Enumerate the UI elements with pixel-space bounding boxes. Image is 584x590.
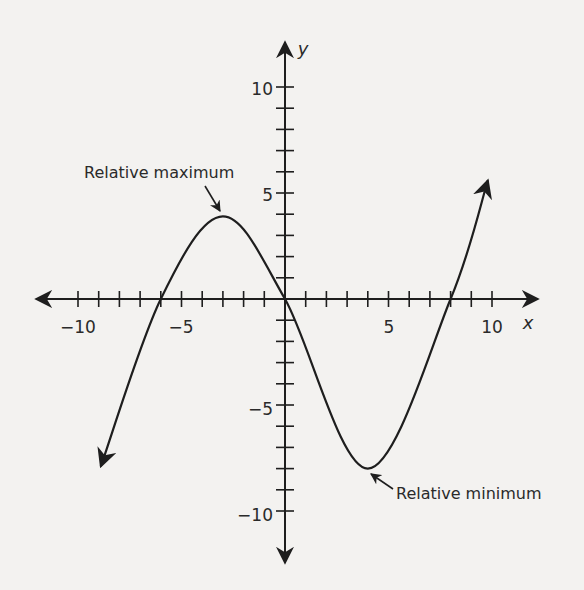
x-tick-label: −5 [168,317,193,337]
function-curve [101,180,488,468]
y-axis-label: y [297,38,309,59]
relative-maximum-label: Relative maximum [84,163,234,182]
y-tick-label: 5 [262,185,273,205]
y-tick-label: −10 [237,505,273,525]
relative-minimum-label: Relative minimum [396,484,542,503]
relative-maximum-arrow [205,186,220,211]
x-axis-label: x [522,312,534,333]
x-tick-label: 10 [481,317,503,337]
y-tick-label: −5 [248,399,273,419]
chart-container: −10 −5 5 10 x 10 5 −5 −10 y Relative max… [0,0,584,590]
y-tick-label: 10 [251,79,273,99]
x-tick-label: −10 [60,317,96,337]
x-tick-label: 5 [384,317,395,337]
chart-svg: −10 −5 5 10 x 10 5 −5 −10 y Relative max… [0,0,584,590]
relative-minimum-arrow [371,474,393,489]
